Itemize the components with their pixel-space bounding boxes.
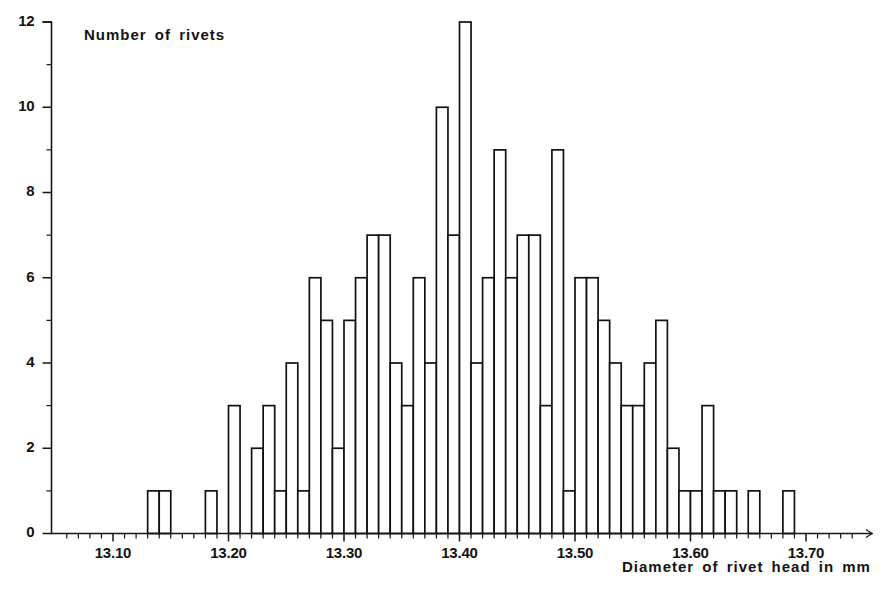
histogram-bar [367,235,379,533]
histogram-bar [529,235,541,533]
histogram-bar [494,150,506,534]
y-tick-label: 0 [26,523,34,540]
histogram-bar [425,363,437,534]
histogram-bar [691,491,703,534]
histogram-bar [263,406,275,534]
histogram-bar [552,150,564,534]
histogram-bar [390,363,402,534]
histogram-bar [159,491,171,534]
y-tick-label: 4 [26,353,35,370]
histogram-bar [667,448,679,533]
histogram-bar [587,278,599,534]
histogram-bar [402,406,414,534]
histogram-bar [344,320,356,533]
histogram-bar [506,278,518,534]
histogram-bar [748,491,760,534]
histogram-bars [148,22,795,534]
histogram-bar [436,107,448,533]
x-tick-label: 13.40 [441,544,478,561]
histogram-bar [483,278,495,534]
y-tick-label: 10 [18,97,34,114]
histogram-bar [448,235,460,533]
histogram-bar [286,363,298,534]
histogram-plot: 024681012 13.1013.2013.3013.4013.5013.60… [0,0,890,592]
histogram-bar [563,491,575,534]
histogram-bar [725,491,737,534]
histogram-bar [540,406,552,534]
histogram-bar [471,363,483,534]
histogram-bar [633,406,645,534]
histogram-figure: 024681012 13.1013.2013.3013.4013.5013.60… [0,0,890,592]
histogram-bar [644,363,656,534]
histogram-bar [275,491,287,534]
x-tick-label: 13.50 [557,544,594,561]
histogram-bar [656,320,668,533]
y-tick-label: 6 [26,268,34,285]
histogram-bar [252,448,264,533]
histogram-bar [517,235,529,533]
y-axis-title: Number of rivets [84,26,225,43]
histogram-bar [321,320,333,533]
histogram-bar [575,278,587,534]
x-axis-title: Diameter of rivet head in mm [622,558,871,575]
histogram-bar [148,491,160,534]
histogram-bar [598,320,610,533]
x-tick-label: 13.20 [210,544,247,561]
histogram-bar [783,491,795,534]
histogram-bar [229,406,241,534]
histogram-bar [298,491,310,534]
y-axis-tick-labels: 024681012 [18,12,35,541]
y-tick-label: 12 [18,12,34,29]
histogram-bar [309,278,321,534]
histogram-bar [610,363,622,534]
x-tick-label: 13.30 [326,544,363,561]
histogram-bar [205,491,217,534]
histogram-bar [379,235,391,533]
x-tick-label: 13.10 [95,544,132,561]
histogram-bar [679,491,691,534]
histogram-bar [460,22,472,534]
y-tick-label: 8 [26,182,34,199]
histogram-bar [714,491,726,534]
histogram-bar [702,406,714,534]
histogram-bar [413,278,425,534]
histogram-bar [332,448,344,533]
histogram-bar [356,278,368,534]
histogram-bar [621,406,633,534]
y-tick-label: 2 [26,438,34,455]
